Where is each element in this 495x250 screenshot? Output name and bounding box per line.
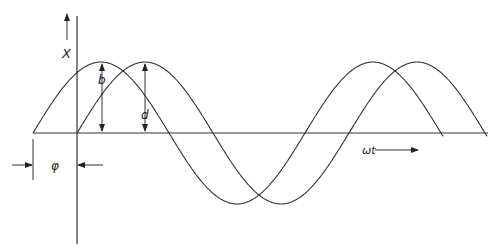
diagram-canvas: X b d φ ωt: [0, 0, 495, 250]
phase-label: φ: [51, 159, 59, 173]
phase-diagram: X b d φ ωt: [0, 0, 495, 250]
amplitude-b-label: b: [98, 73, 106, 87]
x-axis-label: ωt: [362, 144, 376, 157]
y-axis-label: X: [61, 46, 72, 61]
amplitude-d-label: d: [141, 108, 149, 122]
